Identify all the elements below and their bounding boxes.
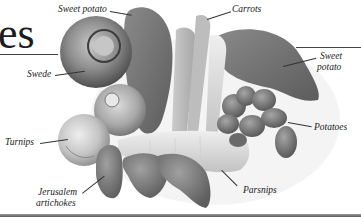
textbook-page: es — [0, 0, 361, 221]
potato-4 — [217, 114, 239, 134]
potato-7 — [275, 126, 297, 158]
label-sweet-potato-right-1: Sweet — [320, 51, 342, 62]
label-swede: Swede — [27, 69, 51, 80]
label-parsnips: Parsnips — [243, 185, 277, 196]
page-bottom-edge — [0, 214, 361, 217]
potato-3 — [252, 89, 276, 111]
label-sweet-potato-right-2: potato — [317, 62, 341, 73]
label-jerusalem-1: Jerusalem — [38, 187, 77, 198]
potato-6 — [261, 108, 287, 128]
label-potatoes: Potatoes — [314, 122, 347, 133]
label-sweet-potato-top: Sweet potato — [58, 4, 107, 15]
potato-8 — [229, 133, 247, 147]
label-carrots: Carrots — [232, 4, 261, 15]
label-turnips: Turnips — [5, 137, 34, 148]
jerusalem-artichoke-1 — [96, 145, 123, 198]
label-jerusalem-2: artichokes — [36, 198, 76, 209]
